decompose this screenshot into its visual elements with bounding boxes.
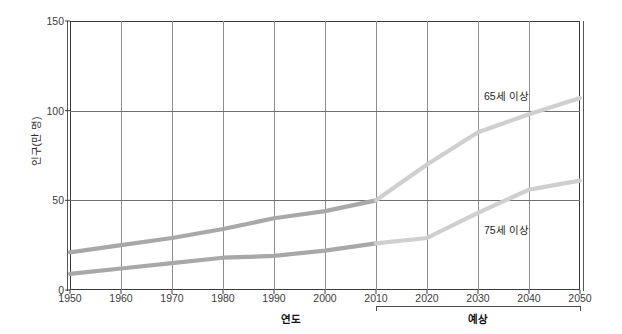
series-lines [0, 0, 622, 334]
series-1-forecast-line [376, 181, 580, 244]
chart-container: 050100150 195019601970198019902000201020… [0, 0, 622, 334]
series-0-historical-line [70, 200, 376, 252]
